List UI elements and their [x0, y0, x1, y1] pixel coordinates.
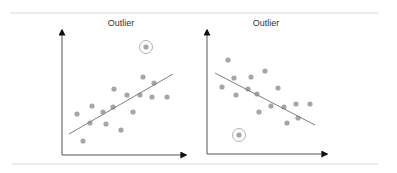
- outlier-point: [236, 132, 241, 137]
- data-point: [248, 74, 253, 79]
- left-axes: [62, 30, 186, 155]
- right-chart-title: Outlier: [253, 18, 280, 28]
- right-scatter-negative: Outlier: [207, 18, 327, 154]
- data-point: [80, 138, 85, 143]
- trend-line: [69, 74, 173, 134]
- left-outlier-marker: [140, 41, 153, 54]
- left-scatter-positive: Outlier: [62, 18, 186, 155]
- data-point: [164, 94, 169, 99]
- data-point: [262, 68, 267, 73]
- left-chart-title: Outlier: [108, 18, 135, 28]
- data-point: [307, 101, 312, 106]
- data-point: [149, 94, 154, 99]
- data-point: [293, 101, 298, 106]
- data-point: [225, 57, 230, 62]
- data-point: [118, 127, 123, 132]
- right-outlier-marker: [233, 129, 246, 142]
- outlier-diagram: Outlier Outlier: [0, 0, 397, 173]
- right-points: [219, 57, 312, 125]
- data-point: [140, 74, 145, 79]
- trend-line: [215, 73, 315, 125]
- right-axes: [207, 30, 327, 154]
- data-point: [268, 103, 273, 108]
- data-point: [74, 111, 79, 116]
- data-point: [124, 92, 129, 97]
- data-point: [233, 92, 238, 97]
- data-point: [103, 121, 108, 126]
- data-point: [130, 109, 135, 114]
- data-point: [89, 103, 94, 108]
- data-point: [219, 84, 224, 89]
- outlier-point: [143, 44, 148, 49]
- left-points: [74, 74, 169, 143]
- data-point: [284, 120, 289, 125]
- right-trend-line: [215, 73, 315, 125]
- data-point: [111, 86, 116, 91]
- data-point: [231, 75, 236, 80]
- left-trend-line: [69, 74, 173, 134]
- data-point: [275, 85, 280, 90]
- data-point: [256, 109, 261, 114]
